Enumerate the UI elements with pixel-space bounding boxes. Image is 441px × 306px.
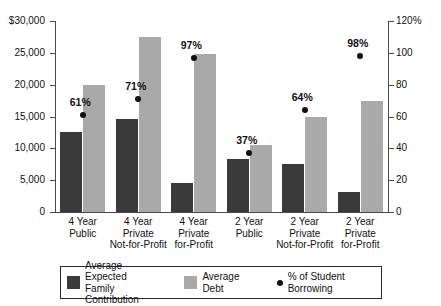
bar-average-expected-family-contribution[interactable]: [338, 192, 360, 212]
y-axis-right-tick-label: 40: [396, 143, 407, 153]
legend-item-debt: Average Debt: [184, 271, 255, 294]
percent-borrowing-marker[interactable]: [302, 107, 308, 113]
legend-label-debt: Average Debt: [202, 271, 255, 294]
y-axis-right-tick: [389, 117, 394, 118]
y-axis-right-tick: [389, 53, 394, 54]
bar-average-debt[interactable]: [361, 101, 383, 212]
percent-borrowing-value-label: 97%: [181, 40, 202, 51]
bar-average-debt[interactable]: [194, 54, 216, 212]
percent-borrowing-value-label: 37%: [236, 135, 257, 146]
percent-borrowing-marker[interactable]: [80, 112, 86, 118]
bar-average-expected-family-contribution[interactable]: [282, 164, 304, 212]
y-axis-left-tick: [50, 212, 55, 213]
bar-average-debt[interactable]: [139, 37, 161, 212]
bar-average-expected-family-contribution[interactable]: [227, 159, 249, 212]
y-axis-right-tick-label: 100: [396, 48, 413, 58]
bar-average-debt[interactable]: [250, 145, 272, 212]
x-axis-category-label: 2 YearPrivatefor-Profit: [323, 216, 399, 251]
category-label-line: for-Profit: [156, 239, 232, 251]
bar-average-expected-family-contribution[interactable]: [60, 132, 82, 212]
y-axis-right-tick-label: 20: [396, 175, 407, 185]
y-axis-right-tick: [389, 21, 394, 22]
category-label-line: 2 Year: [323, 216, 399, 228]
category-label-line: for-Profit: [323, 239, 399, 251]
percent-borrowing-value-label: 71%: [125, 81, 146, 92]
chart-legend: Average Expected Family Contribution Ave…: [60, 266, 382, 299]
legend-label-borrowing: % of Student Borrowing: [288, 271, 381, 294]
y-axis-left-tick-label: 10,000: [14, 143, 45, 153]
legend-item-borrowing: % of Student Borrowing: [274, 271, 381, 294]
y-axis-left-tick-label: 25,000: [14, 48, 45, 58]
y-axis-left-tick-label: 20,000: [14, 80, 45, 90]
percent-borrowing-marker[interactable]: [191, 55, 197, 61]
plot-area: 61%71%97%37%64%98%: [55, 21, 388, 212]
y-axis-right-tick-label: 120%: [396, 16, 422, 26]
legend-item-efc: Average Expected Family Contribution: [67, 260, 161, 306]
percent-borrowing-value-label: 98%: [347, 38, 368, 49]
bar-average-expected-family-contribution[interactable]: [171, 183, 193, 212]
x-axis-line: [55, 212, 389, 213]
chart-container: $30,00025,00020,00015,00010,0005,0000 12…: [0, 0, 441, 306]
y-axis-left-tick-label: 5,000: [20, 175, 45, 185]
y-axis-right-tick-label: 80: [396, 80, 407, 90]
y-axis-right-tick: [389, 148, 394, 149]
y-axis-right-tick-label: 60: [396, 112, 407, 122]
y-axis-left-tick-label: 15,000: [14, 112, 45, 122]
percent-borrowing-value-label: 64%: [292, 92, 313, 103]
legend-label-efc: Average Expected Family Contribution: [85, 260, 161, 306]
legend-swatch-efc-icon: [67, 276, 80, 289]
legend-dot-marker-icon: [277, 280, 283, 286]
percent-borrowing-value-label: 61%: [70, 97, 91, 108]
y-axis-left-tick-label: $30,000: [9, 16, 45, 26]
legend-swatch-debt-icon: [184, 276, 197, 289]
bar-average-expected-family-contribution[interactable]: [116, 119, 138, 212]
bar-average-debt[interactable]: [305, 117, 327, 212]
y-axis-right-tick: [389, 212, 394, 213]
y-axis-right-tick: [389, 85, 394, 86]
category-label-line: Private: [323, 228, 399, 240]
y-axis-right-tick: [389, 180, 394, 181]
percent-borrowing-marker[interactable]: [357, 53, 363, 59]
